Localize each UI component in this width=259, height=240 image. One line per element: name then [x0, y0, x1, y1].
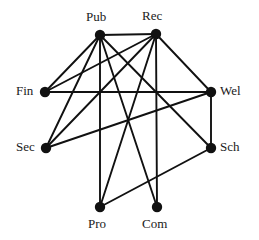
graph-edge [156, 34, 211, 92]
edge-layer [45, 34, 211, 207]
graph-node-label-sec: Sec [16, 140, 35, 153]
graph-node-pub[interactable] [95, 30, 105, 40]
graph-node-sec[interactable] [41, 143, 51, 153]
graph-node-label-sch: Sch [220, 140, 240, 153]
graph-node-fin[interactable] [40, 87, 50, 97]
graph-node-label-fin: Fin [16, 84, 33, 97]
graph-edge [156, 34, 157, 207]
graph-node-sch[interactable] [206, 143, 216, 153]
graph-edge [46, 92, 211, 148]
graph-edge [46, 34, 156, 148]
graph-node-label-pub: Pub [86, 10, 106, 23]
graph-node-pro[interactable] [95, 202, 105, 212]
graph-node-wel[interactable] [206, 87, 216, 97]
graph-node-label-pro: Pro [88, 217, 106, 230]
graph-svg [0, 0, 259, 240]
graph-edge [100, 34, 156, 35]
graph-node-rec[interactable] [151, 29, 161, 39]
graph-node-label-wel: Wel [220, 84, 241, 97]
graph-node-com[interactable] [152, 202, 162, 212]
graph-node-label-com: Com [142, 217, 167, 230]
graph-diagram-canvas: PubRecFinWelSecSchProCom [0, 0, 259, 240]
graph-edge [45, 35, 100, 92]
graph-node-label-rec: Rec [142, 9, 162, 22]
